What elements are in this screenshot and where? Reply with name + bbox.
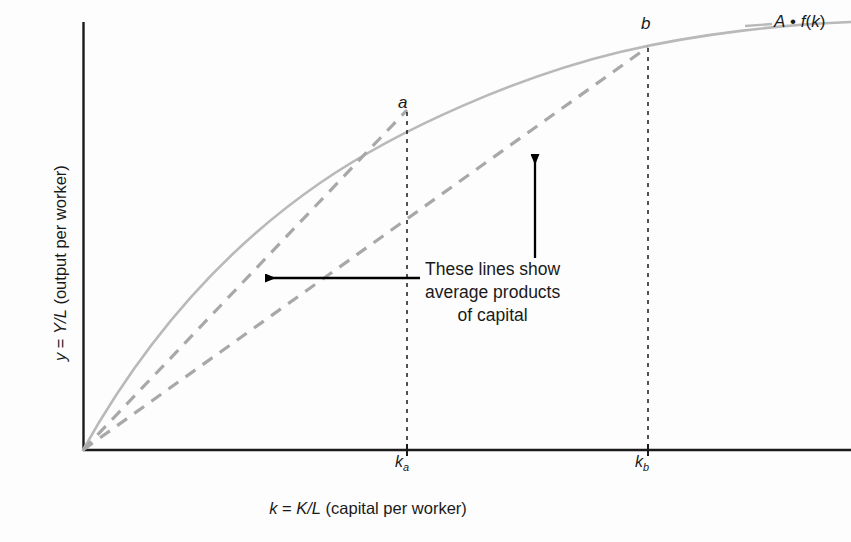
curve-label: A • f(k): [774, 12, 825, 33]
tick-label-kb-base: k: [635, 453, 643, 470]
x-axis-description: (capital per worker): [321, 499, 467, 517]
production-function-figure: y = Y/L (output per worker) k = K/L (cap…: [0, 0, 851, 542]
x-axis-ratio: K/L: [296, 499, 321, 517]
curve-label-paren-close: ): [820, 12, 826, 31]
curve-label-A: A: [774, 12, 785, 31]
annotation-line-2: average products: [425, 281, 560, 304]
tick-label-kb: kb: [635, 452, 649, 474]
point-a-label: a: [398, 93, 407, 114]
tick-label-ka-base: k: [395, 453, 403, 470]
point-b-label: b: [641, 14, 650, 35]
y-axis-equals: =: [51, 334, 69, 353]
tick-label-kb-subscript: b: [643, 461, 649, 473]
plot-background: [83, 20, 851, 450]
tick-label-ka: ka: [395, 452, 409, 474]
annotation-line-3: of capital: [425, 304, 560, 327]
curve-label-dot: •: [785, 12, 800, 31]
tick-label-ka-subscript: a: [403, 461, 409, 473]
annotation-line-1: These lines show: [425, 258, 560, 281]
curve-label-k: k: [811, 12, 820, 31]
annotation-text: These lines show average products of cap…: [425, 258, 560, 327]
y-axis-ratio: Y/L: [51, 309, 69, 334]
x-axis-label: k = K/L (capital per worker): [83, 498, 653, 518]
y-axis-label: y = Y/L (output per worker): [50, 53, 70, 473]
y-axis-description: (output per worker): [51, 165, 69, 309]
y-axis-variable: y: [51, 353, 69, 361]
x-axis-equals: =: [277, 499, 296, 517]
